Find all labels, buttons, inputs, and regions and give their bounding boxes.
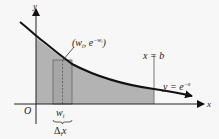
diagram-canvas: y x O (wi, e−wi) x = b y = e−x wi Δix [0,0,219,139]
width-label: Δix [54,125,67,137]
y-axis-label: y [32,1,37,11]
sample-point-label: wi [56,107,65,119]
origin-label: O [24,105,31,116]
curve-equation-label: y = e−x [162,81,191,92]
point-label: (wi, e−wi) [72,37,106,49]
bound-label: x = b [142,50,164,61]
x-axis-label: x [206,99,211,109]
point-leader-line [63,47,74,60]
width-brace [53,120,72,124]
